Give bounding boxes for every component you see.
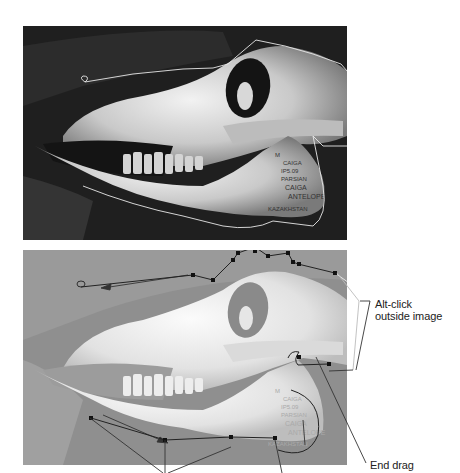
svg-text:M: M: [275, 152, 280, 158]
svg-text:M: M: [275, 388, 280, 394]
skull-illustration-bottom: M CAIGA IP5.09 PARSIAN CAIGA ANTELOPE KA…: [23, 250, 347, 465]
svg-text:KAZAKHSTAN: KAZAKHSTAN: [268, 206, 308, 212]
svg-text:CAIGA: CAIGA: [285, 184, 307, 191]
callout-end-drag: End drag: [370, 459, 414, 471]
svg-text:ANTELOPE: ANTELOPE: [288, 193, 326, 200]
callout-alt-click: Alt-click outside image: [375, 298, 442, 322]
skull-illustration-top: M CAIGA IP5.09 PARSIAN CAIGA ANTELOPE KA…: [23, 26, 347, 240]
svg-text:CAIGA: CAIGA: [283, 396, 302, 402]
callout-alt-click-line1: Alt-click: [375, 298, 442, 310]
skull-photo-top: M CAIGA IP5.09 PARSIAN CAIGA ANTELOPE KA…: [23, 26, 347, 240]
svg-text:CAIGA: CAIGA: [283, 160, 302, 166]
svg-text:IP5.09: IP5.09: [281, 168, 299, 174]
svg-text:PARSIAN: PARSIAN: [281, 412, 307, 418]
svg-text:KAZAKHSTAN: KAZAKHSTAN: [268, 441, 308, 447]
svg-text:ANTELOPE: ANTELOPE: [288, 429, 326, 436]
svg-text:PARSIAN: PARSIAN: [281, 176, 307, 182]
callout-alt-click-line2: outside image: [375, 310, 442, 322]
skull-photo-bottom: M CAIGA IP5.09 PARSIAN CAIGA ANTELOPE KA…: [23, 250, 347, 465]
svg-text:IP5.09: IP5.09: [281, 404, 299, 410]
